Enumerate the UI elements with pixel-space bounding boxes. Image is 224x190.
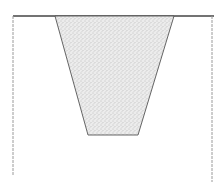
trench-diagram (0, 0, 224, 190)
trench-fill (55, 16, 174, 135)
